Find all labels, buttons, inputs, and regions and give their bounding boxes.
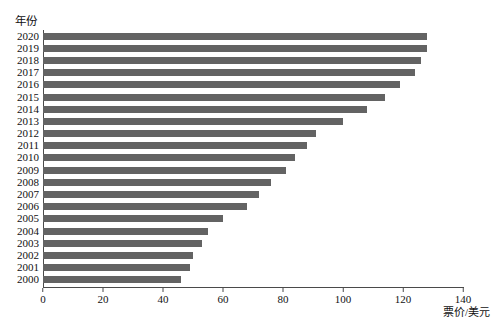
bar bbox=[43, 240, 202, 247]
y-tick-label: 2004 bbox=[17, 226, 39, 237]
x-tick-label: 60 bbox=[218, 293, 229, 305]
bar bbox=[43, 276, 181, 283]
y-tick-label: 2002 bbox=[17, 250, 39, 261]
x-tick-mark bbox=[163, 288, 164, 292]
y-tick-label: 2014 bbox=[17, 104, 39, 115]
x-tick: 20 bbox=[98, 288, 109, 305]
x-tick-mark bbox=[43, 288, 44, 292]
y-tick-label: 2006 bbox=[17, 201, 39, 212]
bar-row: 2007 bbox=[43, 188, 463, 200]
x-tick: 80 bbox=[278, 288, 289, 305]
y-tick-label: 2020 bbox=[17, 31, 39, 42]
bar bbox=[43, 106, 367, 113]
x-tick: 0 bbox=[40, 288, 46, 305]
y-tick-label: 2019 bbox=[17, 43, 39, 54]
bar-row: 2012 bbox=[43, 128, 463, 140]
x-tick-label: 0 bbox=[40, 293, 46, 305]
bar-row: 2020 bbox=[43, 30, 463, 42]
y-tick-label: 2009 bbox=[17, 165, 39, 176]
bar bbox=[43, 33, 427, 40]
bar bbox=[43, 69, 415, 76]
bar-row-list: 2020201920182017201620152014201320122011… bbox=[43, 30, 463, 286]
bar bbox=[43, 215, 223, 222]
bar bbox=[43, 203, 247, 210]
bar-row: 2016 bbox=[43, 79, 463, 91]
bar-row: 2014 bbox=[43, 103, 463, 115]
x-tick-mark bbox=[103, 288, 104, 292]
bar-row: 2011 bbox=[43, 140, 463, 152]
y-tick-label: 2015 bbox=[17, 92, 39, 103]
bar-row: 2003 bbox=[43, 237, 463, 249]
bar bbox=[43, 118, 343, 125]
y-tick-label: 2011 bbox=[17, 140, 39, 151]
bar bbox=[43, 228, 208, 235]
y-axis-title: 年份 bbox=[15, 12, 37, 28]
bar-row: 2015 bbox=[43, 91, 463, 103]
x-tick-label: 40 bbox=[158, 293, 169, 305]
y-tick-label: 2007 bbox=[17, 189, 39, 200]
y-tick-label: 2013 bbox=[17, 116, 39, 127]
bar-row: 2009 bbox=[43, 164, 463, 176]
bar bbox=[43, 191, 259, 198]
plot-area: 2020201920182017201620152014201320122011… bbox=[43, 30, 463, 286]
x-axis-title: 票价/美元 bbox=[443, 303, 490, 319]
y-tick-label: 2008 bbox=[17, 177, 39, 188]
y-tick-label: 2003 bbox=[17, 238, 39, 249]
x-tick-mark bbox=[223, 288, 224, 292]
bar bbox=[43, 57, 421, 64]
y-tick-label: 2018 bbox=[17, 55, 39, 66]
bar bbox=[43, 130, 316, 137]
clipped-header-text: · · · bbox=[8, 0, 32, 4]
bar-row: 2004 bbox=[43, 225, 463, 237]
bar-row: 2001 bbox=[43, 262, 463, 274]
x-tick-label: 20 bbox=[98, 293, 109, 305]
x-tick: 40 bbox=[158, 288, 169, 305]
bar-row: 2002 bbox=[43, 249, 463, 261]
bar-row: 2018 bbox=[43, 54, 463, 66]
x-tick-mark bbox=[283, 288, 284, 292]
bar-row: 2006 bbox=[43, 201, 463, 213]
bar bbox=[43, 154, 295, 161]
x-tick-mark bbox=[343, 288, 344, 292]
y-tick-label: 2010 bbox=[17, 152, 39, 163]
bar-row: 2008 bbox=[43, 176, 463, 188]
bar-row: 2019 bbox=[43, 42, 463, 54]
bar-row: 2017 bbox=[43, 67, 463, 79]
x-tick-label: 100 bbox=[335, 293, 352, 305]
bar bbox=[43, 264, 190, 271]
bar bbox=[43, 81, 400, 88]
x-tick: 60 bbox=[218, 288, 229, 305]
x-tick: 100 bbox=[335, 288, 352, 305]
bar-row: 2010 bbox=[43, 152, 463, 164]
y-tick-label: 2000 bbox=[17, 274, 39, 285]
bar-row: 2005 bbox=[43, 213, 463, 225]
bar-row: 2013 bbox=[43, 115, 463, 127]
bar bbox=[43, 179, 271, 186]
bar bbox=[43, 94, 385, 101]
x-tick-mark bbox=[463, 288, 464, 292]
bar bbox=[43, 252, 193, 259]
x-tick-mark bbox=[403, 288, 404, 292]
x-axis-ticks: 020406080100120140 bbox=[43, 288, 464, 304]
y-tick-label: 2016 bbox=[17, 79, 39, 90]
bar bbox=[43, 167, 286, 174]
bar bbox=[43, 142, 307, 149]
y-tick-label: 2001 bbox=[17, 262, 39, 273]
y-tick-label: 2012 bbox=[17, 128, 39, 139]
x-tick-label: 80 bbox=[278, 293, 289, 305]
x-tick: 120 bbox=[395, 288, 412, 305]
bar-chart-figure: · · · 年份 2020201920182017201620152014201… bbox=[0, 0, 498, 328]
bar bbox=[43, 45, 427, 52]
bar-row: 2000 bbox=[43, 274, 463, 286]
x-tick-label: 120 bbox=[395, 293, 412, 305]
y-tick-label: 2005 bbox=[17, 213, 39, 224]
y-tick-label: 2017 bbox=[17, 67, 39, 78]
